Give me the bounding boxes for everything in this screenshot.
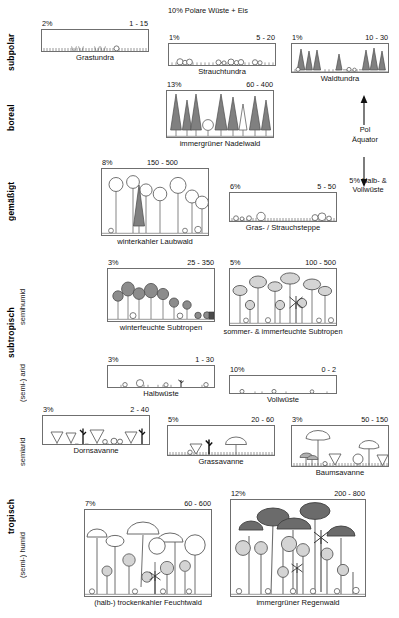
panel-frame — [167, 425, 275, 456]
zone-label-tropisch: tropisch — [6, 488, 16, 544]
panel-halbwueste[interactable]: 3% 1 - 30 Halbwüste — [107, 365, 215, 388]
panel-range: 1 - 15 — [129, 19, 148, 28]
polar-desert-note: 10% Polare Wüste + Eis — [168, 6, 248, 15]
panel-pct: 6% — [230, 182, 241, 191]
panel-frame — [84, 509, 212, 597]
panel-pct: 2% — [42, 19, 53, 28]
panel-frame — [101, 168, 209, 236]
panel-range: 150 - 500 — [147, 158, 178, 167]
panel-caption: Waldtundra — [321, 74, 360, 83]
panel-pct: 7% — [85, 499, 96, 508]
panel-frame — [107, 365, 215, 388]
panel-caption: immergrüner Nadelwald — [180, 139, 261, 148]
halbwueste-vollwueste-note: 5% Halb- & Vollwüste — [340, 176, 396, 194]
panel-sommerfeuchte-subtropen[interactable]: 5% 100 - 500 sommer- & immerfeuchte Subt… — [229, 268, 337, 326]
zone-label-subtropisch: subtropisch — [6, 292, 16, 374]
panel-dornsavanne[interactable]: 3% 2 - 40 Dornsavanne — [42, 415, 150, 445]
panel-frame — [291, 425, 389, 467]
panel-frame — [168, 43, 276, 66]
panel-pct: 5% — [168, 415, 179, 424]
zone-label-subpolar: subpolar — [6, 22, 16, 82]
panel-winterfeuchte-subtropen[interactable]: 3% 25 - 350 winterfeuchte Subtropen — [107, 268, 215, 322]
panel-pct: 3% — [292, 415, 303, 424]
panel-nadelwald[interactable]: 13% 60 - 400 immergrüner Nadelwald — [166, 90, 274, 138]
panel-grastundra[interactable]: 2% 1 - 15 Grastundra — [41, 29, 149, 52]
humidity-label-semi-arid: (semi-) arid — [18, 352, 27, 414]
panel-caption: Vollwüste — [267, 395, 299, 404]
arrow-label-pol: Pol — [344, 125, 386, 135]
panel-frame — [291, 43, 389, 73]
panel-range: 2 - 40 — [130, 405, 149, 414]
panel-range: 0 - 2 — [321, 365, 336, 374]
sidenote-line2: Vollwüste — [340, 185, 396, 194]
arrow-labels: Pol Äquator — [344, 125, 386, 144]
humidity-label-semihumid: semihumid — [18, 276, 27, 338]
panel-caption: Gras- / Strauchsteppe — [246, 223, 320, 232]
panel-range: 60 - 400 — [246, 80, 273, 89]
panel-pct: 3% — [108, 355, 119, 364]
panel-caption: Grastundra — [76, 53, 114, 62]
panel-pct: 5% — [230, 258, 241, 267]
panel-range: 10 - 30 — [365, 33, 388, 42]
panel-range: 60 - 600 — [184, 499, 211, 508]
panel-regenwald[interactable]: 12% 200 - 800 immergrüner Regenwald — [230, 499, 366, 597]
panel-frame — [230, 499, 366, 597]
panel-strauchtundra[interactable]: 1% 5 - 20 Strauchtundra — [168, 43, 276, 66]
panel-pct: 13% — [167, 80, 182, 89]
panel-caption: Strauchtundra — [198, 67, 246, 76]
panel-frame — [229, 268, 337, 326]
panel-feuchtwald[interactable]: 7% 60 - 600 (halb-) trockenkahler Feucht… — [84, 509, 212, 597]
panel-caption: Dornsavanne — [73, 446, 118, 455]
panel-baumsavanne[interactable]: 3% 50 - 150 Baumsavanne — [291, 425, 389, 467]
panel-range: 200 - 800 — [334, 489, 365, 498]
panel-caption: sommer- & immerfeuchte Subtropen — [223, 327, 342, 336]
panel-caption: Halbwüste — [143, 389, 178, 398]
panel-pct: 10% — [230, 365, 245, 374]
panel-caption: Baumsavanne — [316, 468, 365, 477]
panel-range: 50 - 150 — [361, 415, 388, 424]
panel-caption: winterfeuchte Subtropen — [120, 323, 202, 332]
panel-pct: 12% — [231, 489, 246, 498]
panel-frame — [229, 192, 337, 222]
panel-caption: immergrüner Regenwald — [256, 598, 339, 607]
panel-range: 25 - 350 — [187, 258, 214, 267]
panel-pct: 1% — [169, 33, 180, 42]
panel-caption: Grassavanne — [198, 457, 243, 466]
panel-frame — [107, 268, 215, 322]
panel-waldtundra[interactable]: 1% 10 - 30 Waldtundra — [291, 43, 389, 73]
panel-range: 5 - 20 — [256, 33, 275, 42]
panel-frame — [229, 375, 337, 394]
panel-frame — [41, 29, 149, 52]
panel-range: 100 - 500 — [305, 258, 336, 267]
panel-vollwueste[interactable]: 10% 0 - 2 Vollwüste — [229, 375, 337, 394]
arrow-label-aequator: Äquator — [344, 135, 386, 145]
zone-label-gemaessigt: gemäßigt — [6, 168, 16, 234]
panel-pct: 3% — [108, 258, 119, 267]
panel-steppe[interactable]: 6% 5 - 50 Gras- / Strauchsteppe — [229, 192, 337, 222]
panel-frame — [166, 90, 274, 138]
panel-caption: winterkahler Laubwald — [117, 237, 193, 246]
zone-label-boreal: boreal — [6, 92, 16, 144]
panel-pct: 3% — [43, 405, 54, 414]
panel-range: 20 - 60 — [251, 415, 274, 424]
humidity-label-semiarid: semiarid — [18, 426, 27, 478]
panel-range: 5 - 50 — [317, 182, 336, 191]
panel-laubwald[interactable]: 8% 150 - 500 winterkahler Laubwald — [101, 168, 209, 236]
panel-grassavanne[interactable]: 5% 20 - 60 Grassavanne — [167, 425, 275, 456]
panel-frame — [42, 415, 150, 445]
panel-caption: (halb-) trockenkahler Feuchtwald — [94, 598, 202, 607]
sidenote-line1: 5% Halb- & — [340, 176, 396, 185]
humidity-label-semi-humid: (semi-) humid — [18, 524, 27, 586]
panel-pct: 8% — [102, 158, 113, 167]
panel-range: 1 - 30 — [195, 355, 214, 364]
panel-pct: 1% — [292, 33, 303, 42]
